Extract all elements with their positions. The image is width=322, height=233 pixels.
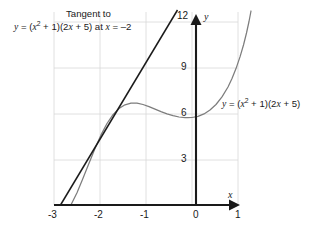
curve-eq-a: = ( [226, 98, 240, 109]
y-tick-label-3: 3 [181, 154, 187, 164]
grid-lines [54, 12, 238, 205]
curve-eq-c: + 5) [281, 98, 300, 109]
tangent-line [61, 10, 178, 205]
graph-figure: 12 9 6 3 -3 -2 -1 0 1 y x Tangent to y =… [0, 0, 322, 233]
tangent-annotation-line2: y = (x2 + 1)(2x + 5) at x = –2 [14, 21, 131, 34]
tangent-group [61, 10, 178, 205]
y-tick-label-6: 6 [181, 108, 187, 118]
x-tick-label-1: 1 [235, 210, 241, 220]
y-tick-label-9: 9 [181, 62, 187, 72]
x-tick-label--1: -1 [140, 210, 149, 220]
tangent-eq-d: = –2 [110, 21, 132, 32]
x-tick-label--3: -3 [48, 210, 57, 220]
tangent-eq-b: + 1)(2 [40, 21, 68, 32]
curve-eq-b: + 1)(2 [248, 98, 276, 109]
y-axis-label: y [204, 12, 208, 22]
x-tick-label-0: 0 [193, 210, 199, 220]
tangent-annotation-line1: Tangent to [14, 8, 131, 21]
x-axis-label: x [228, 190, 232, 200]
x-tick-label--2: -2 [94, 210, 103, 220]
tangent-eq-a: = ( [18, 21, 32, 32]
y-tick-label-12: 12 [177, 11, 188, 21]
curve-annotation: y = (x2 + 1)(2x + 5) [222, 98, 300, 111]
tangent-annotation: Tangent to y = (x2 + 1)(2x + 5) at x = –… [14, 8, 131, 34]
plot-canvas [0, 0, 322, 233]
tangent-eq-c: + 5) at [73, 21, 106, 32]
